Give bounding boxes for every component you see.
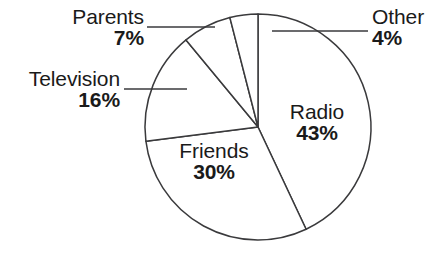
- slice-label-other-value: 4%: [372, 27, 434, 48]
- slice-label-friends: Friends 30%: [168, 140, 260, 183]
- slice-label-friends-name: Friends: [168, 140, 260, 161]
- slice-label-other-name: Other: [372, 6, 434, 27]
- slice-label-parents-name: Parents: [60, 6, 144, 27]
- slice-label-television-value: 16%: [12, 89, 120, 110]
- slice-label-television-name: Television: [12, 68, 120, 89]
- slice-label-radio: Radio 43%: [279, 101, 355, 144]
- slice-label-parents-value: 7%: [60, 27, 144, 48]
- slice-label-parents: Parents 7%: [60, 6, 144, 49]
- pie-chart-figure: Parents 7% Television 16% Other 4% Radio…: [0, 0, 438, 258]
- slice-label-other: Other 4%: [372, 6, 434, 49]
- slice-label-radio-value: 43%: [279, 122, 355, 143]
- slice-label-television: Television 16%: [12, 68, 120, 111]
- slice-label-radio-name: Radio: [279, 101, 355, 122]
- slice-label-friends-value: 30%: [168, 161, 260, 182]
